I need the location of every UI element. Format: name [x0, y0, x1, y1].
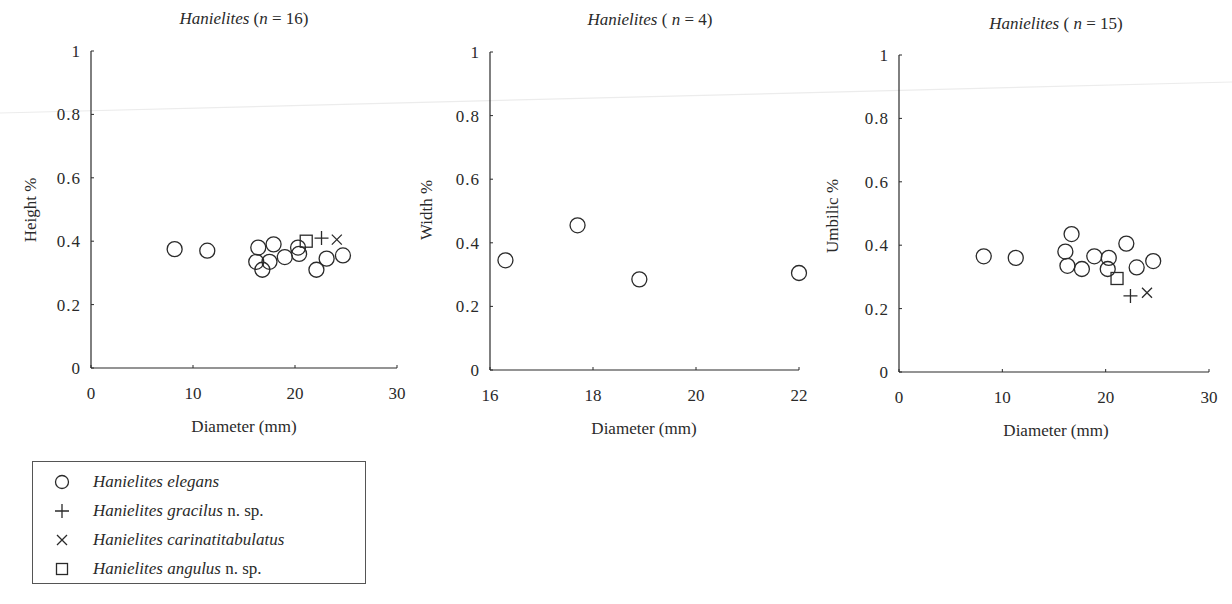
- x-tick-label: 0: [87, 384, 96, 403]
- height-scatter-panel: Hanielites (n = 16) Height % Diameter (m…: [21, 9, 406, 436]
- data-point-circle: [1119, 236, 1134, 251]
- y-tick-label: 0.4: [865, 236, 889, 255]
- y-tick-label: 0.2: [456, 297, 480, 316]
- square-marker-icon: [53, 559, 93, 579]
- data-point-circle: [1008, 250, 1023, 265]
- data-point-circle: [498, 253, 513, 268]
- y-tick-label: 0.6: [865, 173, 889, 192]
- data-point-circle: [1087, 249, 1102, 264]
- x-axis-label: Diameter (mm): [591, 419, 696, 438]
- x-tick-label: 18: [585, 386, 602, 405]
- panel-title: Hanielites ( n = 15): [988, 14, 1122, 33]
- y-tick-label: 0.8: [456, 107, 480, 126]
- x-tick-label: 10: [185, 384, 202, 403]
- cross-marker-icon: [53, 530, 93, 550]
- y-tick-label: 1: [72, 42, 82, 61]
- data-point-plus: [315, 231, 329, 245]
- data-point-circle: [792, 266, 807, 281]
- data-point-circle: [200, 243, 215, 258]
- y-tick-label: 0.8: [865, 109, 889, 128]
- x-tick-label: 20: [1097, 388, 1114, 407]
- data-point-plus: [1123, 289, 1137, 303]
- y-tick-label: 1: [880, 46, 890, 65]
- y-tick-label: 0.4: [456, 234, 480, 253]
- data-point-circle: [632, 272, 647, 287]
- plus-marker-icon: [53, 501, 93, 521]
- y-tick-label: 1: [471, 43, 481, 62]
- x-tick-label: 30: [389, 384, 406, 403]
- data-point-circle: [277, 250, 292, 265]
- x-tick-label: 30: [1201, 388, 1218, 407]
- width-scatter-panel: Hanielites ( n = 4) Width % Diameter (mm…: [417, 10, 808, 438]
- data-point-circle: [1074, 261, 1089, 276]
- x-axis-label: Diameter (mm): [1003, 421, 1108, 440]
- legend-item-gracilus: Hanielites gracilus n. sp.: [33, 496, 365, 525]
- y-tick-label: 0.2: [57, 296, 81, 315]
- x-axis-label: Diameter (mm): [191, 417, 296, 436]
- data-point-circle: [1058, 244, 1073, 259]
- data-point-circle: [1060, 258, 1075, 273]
- y-tick-label: 0: [471, 361, 481, 380]
- y-axis-label: Height %: [21, 178, 40, 243]
- y-tick-label: 0: [72, 359, 82, 378]
- y-tick-label: 0.4: [57, 232, 81, 251]
- x-tick-label: 20: [287, 384, 304, 403]
- data-point-cross: [1142, 288, 1152, 298]
- data-point-circle: [570, 218, 585, 233]
- data-point-cross: [332, 235, 342, 245]
- x-tick-label: 22: [791, 386, 808, 405]
- circle-marker-icon: [53, 472, 93, 492]
- y-tick-label: 0: [880, 363, 890, 382]
- panel-title: Hanielites (n = 16): [178, 9, 308, 28]
- y-axis-label: Umbilic %: [823, 179, 842, 253]
- legend-item-carinatitabulatus: Hanielites carinatitabulatus: [33, 525, 365, 554]
- y-tick-label: 0.2: [865, 300, 889, 319]
- x-tick-label: 16: [482, 386, 499, 405]
- data-point-circle: [1064, 227, 1079, 242]
- data-point-circle: [335, 248, 350, 263]
- data-point-circle: [266, 237, 281, 252]
- x-tick-label: 20: [688, 386, 705, 405]
- data-point-circle: [1146, 254, 1161, 269]
- y-axis-label: Width %: [417, 180, 436, 240]
- data-point-circle: [1100, 261, 1115, 276]
- umbilic-scatter-panel: Hanielites ( n = 15) Umbilic % Diameter …: [823, 14, 1218, 440]
- legend-box: Hanielites elegans Hanielites gracilus n…: [32, 461, 366, 584]
- scan-artifact-line: [0, 82, 1232, 113]
- legend-item-angulus: Hanielites angulus n. sp.: [33, 554, 365, 583]
- y-tick-label: 0.8: [57, 105, 81, 124]
- y-tick-label: 0.6: [57, 169, 81, 188]
- x-tick-label: 10: [994, 388, 1011, 407]
- y-tick-label: 0.6: [456, 170, 480, 189]
- data-point-circle: [251, 240, 266, 255]
- data-point-circle: [1129, 260, 1144, 275]
- data-point-circle: [976, 249, 991, 264]
- x-tick-label: 0: [895, 388, 904, 407]
- data-point-circle: [167, 242, 182, 257]
- data-point-circle: [319, 251, 334, 266]
- legend-item-elegans: Hanielites elegans: [33, 467, 365, 496]
- panel-title: Hanielites ( n = 4): [587, 10, 713, 29]
